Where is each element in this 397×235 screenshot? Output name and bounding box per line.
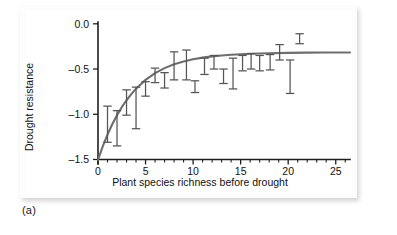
errorbar-marker — [286, 60, 294, 93]
errorbar-marker — [247, 54, 255, 69]
y-axis-tick-label: 0.0 — [74, 18, 89, 30]
errorbar-marker — [113, 111, 121, 146]
errorbar-marker — [219, 69, 227, 83]
errorbar-marker — [103, 106, 111, 142]
x-axis-tick-label: 0 — [95, 165, 101, 177]
errorbar-marker — [266, 55, 274, 70]
axis-labels-layer: 0.0–0.5–1.0–1.50510152025 — [69, 18, 342, 178]
y-axis-tick-label: –1.5 — [69, 153, 90, 165]
errorbar-marker — [229, 58, 237, 89]
figure-caption-label: (a) — [22, 204, 36, 216]
errorbar-marker — [295, 34, 303, 44]
errorbar-marker — [160, 73, 168, 88]
y-axis-tick-label: –1.0 — [69, 108, 90, 120]
x-axis-tick-label: 25 — [330, 165, 342, 177]
y-axis-tick-label: –0.5 — [69, 63, 90, 75]
errorbar-marker — [122, 90, 130, 115]
errorbar-layer — [103, 34, 303, 146]
errorbar-marker — [255, 55, 263, 70]
errorbar-marker — [200, 58, 208, 74]
x-axis-title: Plant species richness before drought — [112, 176, 288, 188]
errorbar-marker — [191, 81, 199, 93]
errorbar-marker — [182, 50, 190, 80]
figure-root: 0.0–0.5–1.0–1.50510152025 Drought resist… — [0, 0, 397, 235]
drought-resistance-scatter-chart: 0.0–0.5–1.0–1.50510152025 Drought resist… — [20, 6, 357, 198]
errorbar-marker — [238, 55, 246, 70]
y-axis-title: Drought resistance — [23, 63, 35, 151]
